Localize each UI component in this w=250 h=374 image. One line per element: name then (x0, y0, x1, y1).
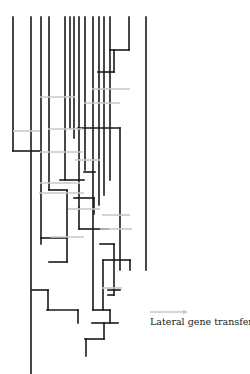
legend-label: Lateral gene transfer (150, 316, 250, 327)
tree-branches (13, 17, 146, 374)
legend-arrow-icon (150, 310, 188, 315)
